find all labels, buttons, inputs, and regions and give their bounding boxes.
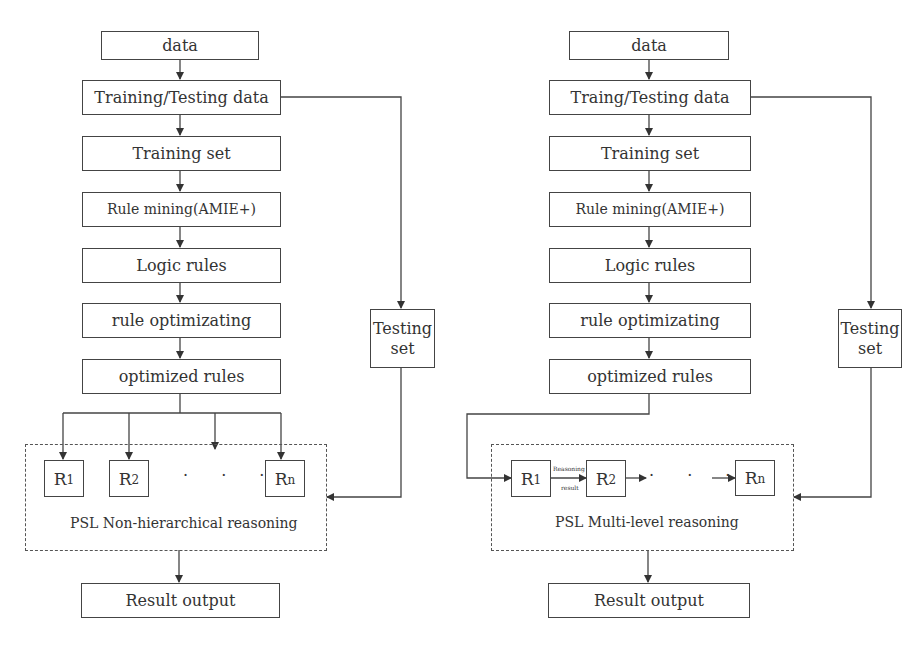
right-psl-label: PSL Multi-level reasoning xyxy=(555,514,739,530)
left-data-node: data xyxy=(101,31,259,60)
rule-main: R xyxy=(521,469,534,489)
left-rule-r1: R1 xyxy=(44,460,84,497)
left-optimized-rules-node: optimized rules xyxy=(82,359,281,394)
edge-label-reasoning: Reasoning xyxy=(553,465,585,472)
left-train-test-data-node: Training/Testing data xyxy=(82,80,281,115)
right-training-set-node: Training set xyxy=(549,136,751,171)
right-rule-rn: Rn xyxy=(735,460,775,496)
rule-sub: n xyxy=(758,472,766,486)
left-logic-rules-node: Logic rules xyxy=(82,248,281,283)
rule-main: R xyxy=(275,469,288,489)
left-rule-r2: R2 xyxy=(109,460,149,497)
rule-sub: 2 xyxy=(609,473,617,487)
left-result-output-node: Result output xyxy=(81,583,280,618)
right-logic-rules-node: Logic rules xyxy=(549,248,751,283)
left-rule-rn: Rn xyxy=(265,460,305,497)
left-rule-mining-node: Rule mining(AMIE+) xyxy=(82,192,281,227)
right-rule-mining-node: Rule mining(AMIE+) xyxy=(549,192,751,227)
right-rule-r2: R2 xyxy=(586,460,626,497)
right-ellipsis: · · · xyxy=(649,466,744,485)
right-testing-set-node: Testing set xyxy=(838,309,902,368)
edge-label-result: result xyxy=(561,484,579,491)
rule-sub: 1 xyxy=(67,473,75,487)
left-psl-label: PSL Non-hierarchical reasoning xyxy=(70,515,298,531)
right-result-output-node: Result output xyxy=(548,583,750,618)
right-rule-optimizing-node: rule optimizating xyxy=(549,303,751,338)
right-optimized-rules-node: optimized rules xyxy=(549,359,751,394)
right-data-node: data xyxy=(569,31,729,60)
rule-main: R xyxy=(119,469,132,489)
rule-main: R xyxy=(596,469,609,489)
left-testing-set-node: Testing set xyxy=(370,309,435,368)
rule-sub: 2 xyxy=(132,473,140,487)
rule-sub: n xyxy=(288,473,296,487)
right-rule-r1: R1 xyxy=(511,460,551,497)
right-train-test-data-node: Traing/Testing data xyxy=(549,80,751,115)
left-training-set-node: Training set xyxy=(82,136,281,171)
left-rule-optimizing-node: rule optimizating xyxy=(82,303,281,338)
rule-main: R xyxy=(745,468,758,488)
rule-sub: 1 xyxy=(534,473,542,487)
rule-main: R xyxy=(54,469,67,489)
